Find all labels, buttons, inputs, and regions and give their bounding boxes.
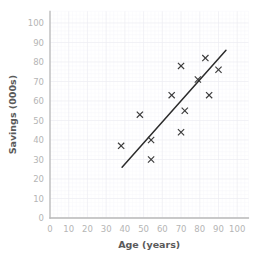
y-tick-label: 10 bbox=[33, 194, 44, 204]
x-tick-label: 80 bbox=[194, 224, 205, 234]
y-axis-tick-labels: 0102030405060708090100 bbox=[28, 18, 44, 223]
y-tick-label: 20 bbox=[33, 174, 44, 184]
x-tick-label: 40 bbox=[119, 224, 130, 234]
y-tick-label: 90 bbox=[33, 38, 44, 48]
x-tick-label: 0 bbox=[47, 224, 52, 234]
y-tick-label: 60 bbox=[33, 96, 44, 106]
x-axis-tick-labels: 0102030405060708090100 bbox=[47, 224, 245, 234]
y-tick-label: 30 bbox=[33, 155, 44, 165]
y-tick-label: 80 bbox=[33, 57, 44, 67]
y-tick-label: 40 bbox=[33, 135, 44, 145]
x-tick-label: 70 bbox=[176, 224, 187, 234]
y-tick-label: 70 bbox=[33, 77, 44, 87]
x-axis-title: Age (years) bbox=[118, 239, 180, 250]
y-axis-title: Savings (000s) bbox=[7, 75, 18, 154]
x-tick-label: 50 bbox=[138, 224, 149, 234]
x-tick-label: 20 bbox=[82, 224, 93, 234]
x-tick-label: 10 bbox=[63, 224, 74, 234]
scatter-chart: 0102030405060708090100 01020304050607080… bbox=[0, 0, 269, 255]
x-tick-label: 60 bbox=[157, 224, 168, 234]
y-tick-label: 0 bbox=[39, 213, 44, 223]
chart-canvas: 0102030405060708090100 01020304050607080… bbox=[0, 0, 269, 255]
x-tick-label: 30 bbox=[101, 224, 112, 234]
y-tick-label: 50 bbox=[33, 116, 44, 126]
x-tick-label: 100 bbox=[229, 224, 245, 234]
y-tick-label: 100 bbox=[28, 18, 44, 28]
x-tick-label: 90 bbox=[213, 224, 224, 234]
